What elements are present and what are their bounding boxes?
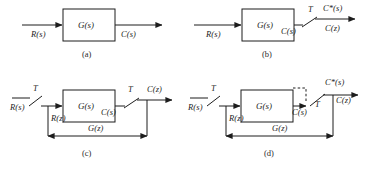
input-label-a: R(s) <box>31 30 46 39</box>
panel-b: G(s) R(s) C(s) T C*(s) C(z) (b) <box>184 0 368 86</box>
input-sampler-blade <box>207 96 220 106</box>
panel-a-artwork <box>0 0 184 86</box>
output-sampler-period-label-d: T <box>315 100 320 109</box>
input-sampler-period-label-d: T <box>211 84 216 93</box>
input-sampler-period-label-c: T <box>33 84 38 93</box>
z-output-label-b: C(z) <box>325 24 340 33</box>
block-label-a: G(s) <box>78 20 94 30</box>
figure-container: G(s) R(s) C(s) (a) G(s) R(s) C(s) T C*(s… <box>0 0 368 172</box>
block-label-d: G(s) <box>256 101 272 111</box>
sampler-switch-blade <box>302 17 317 27</box>
panel-a: G(s) R(s) C(s) (a) <box>0 0 184 86</box>
output-sampler-blade <box>124 98 139 108</box>
output-label-c: C(s) <box>101 108 116 117</box>
panel-c: G(s) R(s) T C(s) T C(z) R(z) G(z) (c) <box>0 86 184 172</box>
z-transfer-label-c: G(z) <box>88 124 104 133</box>
z-input-label-d: R(z) <box>229 114 244 123</box>
z-transfer-label-d: G(z) <box>272 124 288 133</box>
input-sampler-blade <box>29 96 42 106</box>
caption-a: (a) <box>82 49 91 59</box>
z-output-label-c: C(z) <box>147 85 162 94</box>
block-label-c: G(s) <box>78 101 94 111</box>
output-label-b: C(s) <box>281 27 296 36</box>
caption-c: (c) <box>82 148 91 158</box>
input-label-d: R(s) <box>188 103 203 112</box>
output-label-a: C(s) <box>121 30 136 39</box>
input-label-c: R(s) <box>10 103 25 112</box>
caption-d: (d) <box>264 148 274 158</box>
output-sampler-period-label-c: T <box>128 85 133 94</box>
star-output-label-b: C*(s) <box>323 4 342 13</box>
dashed-boundary-box <box>293 88 306 101</box>
star-output-label-d: C*(s) <box>325 78 344 87</box>
output-label-d: C(s) <box>292 108 307 117</box>
block-label-b: G(s) <box>257 20 273 30</box>
caption-b: (b) <box>262 49 272 59</box>
input-label-b: R(s) <box>206 30 221 39</box>
sampler-period-label-b: T <box>308 5 313 14</box>
panel-d: G(s) R(s) T C(s) T C*(s) C(z) R(z) G(z) … <box>184 86 368 172</box>
z-output-label-d: C(z) <box>336 96 351 105</box>
z-input-label-c: R(z) <box>51 114 66 123</box>
